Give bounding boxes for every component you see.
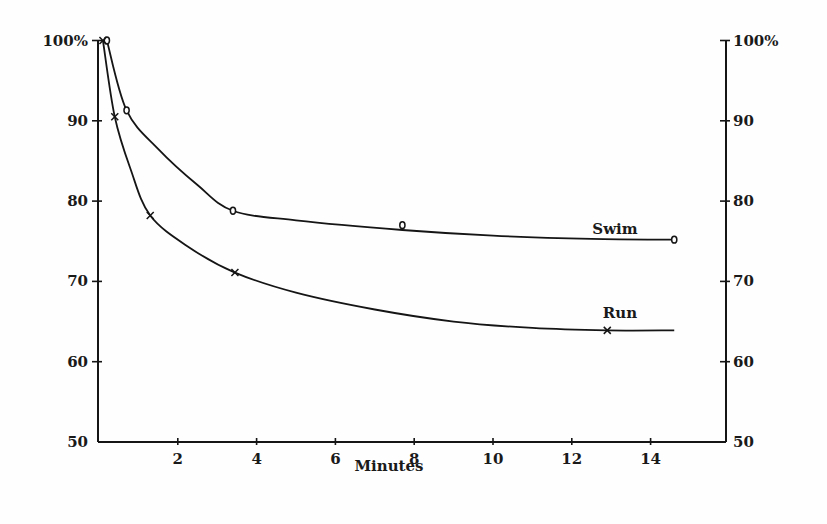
swim-data-point (672, 236, 677, 243)
x-tick-label: 2 (173, 450, 183, 468)
x-tick-label: 10 (483, 450, 504, 468)
run-data-point (231, 269, 238, 276)
right-y-tick-label: 50 (733, 433, 754, 451)
right-y-ticks: 5060708090100% (720, 32, 779, 452)
left-y-tick-label: 100% (42, 32, 88, 50)
run-data-point (147, 212, 154, 219)
left-y-tick-label: 60 (67, 353, 88, 371)
axes (98, 40, 726, 442)
curves (103, 41, 674, 331)
right-y-tick-label: 60 (733, 353, 754, 371)
right-y-tick-label: 90 (733, 112, 754, 130)
swim-data-point (230, 207, 235, 214)
left-y-tick-label: 70 (67, 272, 88, 290)
left-y-tick-label: 50 (67, 433, 88, 451)
right-y-tick-label: 70 (733, 272, 754, 290)
swim-data-point (124, 107, 129, 114)
x-tick-label: 12 (561, 450, 582, 468)
right-y-tick-label: 80 (733, 192, 754, 210)
right-y-tick-label: 100% (733, 32, 779, 50)
x-tick-label: 6 (330, 450, 340, 468)
left-y-tick-label: 90 (67, 112, 88, 130)
run-curve (103, 41, 674, 331)
swim-data-point (400, 222, 405, 229)
x-axis-title: Minutes (354, 457, 423, 475)
x-tick-label: 4 (251, 450, 261, 468)
swim-curve (107, 41, 674, 240)
run-label: Run (603, 304, 637, 322)
swim-label: Swim (592, 220, 637, 238)
markers (99, 37, 676, 334)
left-y-tick-label: 80 (67, 192, 88, 210)
x-tick-label: 14 (640, 450, 661, 468)
chart: 5060708090100% 5060708090100% 2468101214… (0, 0, 827, 524)
left-y-ticks: 5060708090100% (42, 32, 102, 452)
